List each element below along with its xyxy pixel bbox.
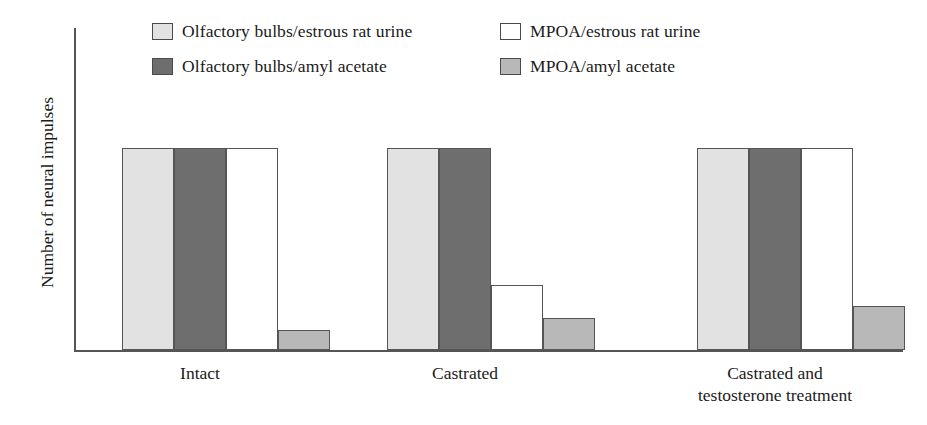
bar (491, 285, 543, 350)
x-axis-tick-label: Castrated (335, 362, 595, 384)
x-axis-line (74, 350, 903, 352)
y-axis-line (74, 28, 76, 352)
bar (439, 148, 491, 350)
bar (697, 148, 749, 350)
x-axis-tick-label-line: testosterone treatment (645, 384, 905, 406)
x-axis-tick-label-line: Castrated and (645, 362, 905, 384)
bar (174, 148, 226, 350)
bar (122, 148, 174, 350)
x-axis-tick-label: Intact (70, 362, 330, 384)
bar (226, 148, 278, 350)
bar (853, 306, 905, 350)
x-axis-tick-label-line: Castrated (335, 362, 595, 384)
y-axis-label: Number of neural impulses (37, 43, 58, 343)
bar-chart-figure: Olfactory bulbs/estrous rat urine Olfact… (0, 0, 927, 425)
bar (278, 330, 330, 350)
bar (801, 148, 853, 350)
bar (749, 148, 801, 350)
x-axis-tick-label-line: Intact (70, 362, 330, 384)
plot-area (74, 28, 903, 352)
x-axis-tick-label: Castrated andtestosterone treatment (645, 362, 905, 406)
bar (387, 148, 439, 350)
bar (543, 318, 595, 350)
